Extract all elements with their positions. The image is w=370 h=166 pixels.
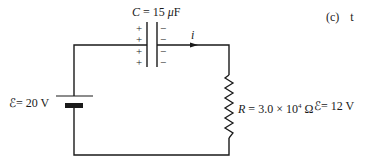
capacitor-value: 15 [153, 5, 165, 19]
resistor-emf-unit: V [346, 99, 355, 113]
capacitor-minus-2: − [160, 33, 166, 45]
resistor-exponent: 4 [298, 102, 302, 110]
wire-bottom [74, 106, 229, 155]
capacitor-unit: F [174, 5, 181, 19]
battery-unit: V [41, 96, 50, 110]
resistor-base: 10 [286, 102, 298, 116]
battery-short-plate [65, 103, 83, 108]
resistor-zigzag [225, 75, 233, 138]
resistor-emf-symbol: ℰ [314, 99, 321, 113]
side-text: (c) t [326, 11, 354, 23]
capacitor [147, 22, 157, 67]
capacitor-equals: = [143, 5, 150, 19]
resistor-label: R = 3.0 × 104 Ω [238, 100, 313, 115]
resistor-times: × [276, 102, 283, 116]
side-text-label: (c) [326, 10, 339, 24]
resistor-symbol: R [238, 102, 245, 116]
resistor-emf-equals: = [321, 99, 328, 113]
resistor-mantissa: 3.0 [258, 102, 273, 116]
capacitor-plus-2: + [136, 33, 142, 45]
current-label: i [191, 29, 194, 41]
side-text-content: t [350, 10, 353, 24]
resistor-emf-label: ℰ= 12 V [314, 100, 354, 112]
resistor-unit: Ω [304, 102, 313, 116]
battery [56, 96, 93, 108]
battery-label: ℰ= 20 V [9, 97, 49, 109]
current-arrow-icon [190, 43, 198, 48]
wire-top-right [157, 45, 229, 75]
capacitor-plus-4: + [136, 56, 142, 68]
resistor-equals: = [248, 102, 255, 116]
circuit-wires [74, 45, 229, 155]
battery-value: 20 [26, 96, 38, 110]
capacitor-minus-4: − [160, 56, 166, 68]
battery-equals: = [16, 96, 23, 110]
capacitor-label: C = 15 μF [132, 6, 181, 18]
resistor-emf-value: 12 [331, 99, 343, 113]
battery-emf-symbol: ℰ [9, 96, 16, 110]
rc-circuit-diagram [0, 0, 370, 166]
capacitor-symbol: C [132, 5, 140, 19]
